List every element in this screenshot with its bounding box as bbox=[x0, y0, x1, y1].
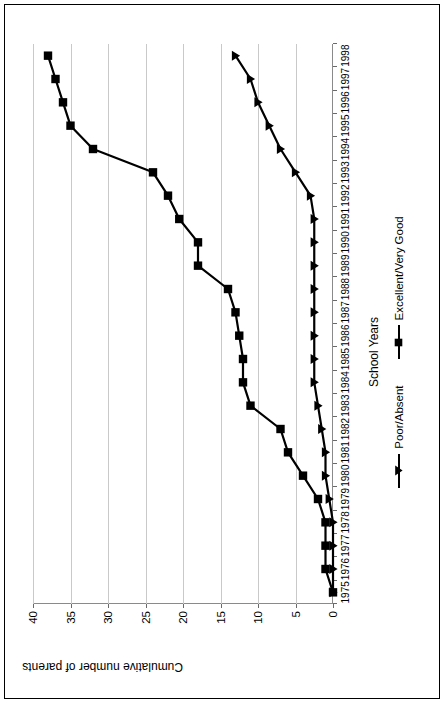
y-axis-title: Cumulative number of parents bbox=[22, 660, 183, 674]
x-tick-label: 1993 bbox=[340, 161, 351, 183]
x-tick-label: 1992 bbox=[340, 184, 351, 206]
data-point bbox=[44, 51, 52, 59]
triangle-marker-icon bbox=[398, 453, 400, 487]
data-point bbox=[299, 471, 307, 479]
legend-label-excellent-very-good: Excellent/Very Good bbox=[393, 216, 405, 320]
x-tick-mark bbox=[333, 183, 337, 184]
data-point bbox=[194, 238, 202, 246]
x-tick-label: 1980 bbox=[340, 464, 351, 486]
data-point bbox=[246, 401, 254, 409]
x-tick-mark bbox=[333, 43, 337, 44]
x-tick-label: 1978 bbox=[340, 511, 351, 533]
chart-canvas: 0510152025303540 19751976197719781979198… bbox=[15, 22, 429, 682]
y-tick-mark bbox=[183, 604, 184, 608]
data-point bbox=[51, 74, 59, 82]
x-tick-mark bbox=[333, 416, 337, 417]
chart-legend: Poor/Absent Excellent/Very Good bbox=[393, 22, 405, 682]
y-tick-mark bbox=[108, 604, 109, 608]
y-tick-label: 25 bbox=[140, 611, 152, 624]
data-point bbox=[321, 518, 329, 526]
y-tick-label: 0 bbox=[327, 611, 339, 617]
data-point bbox=[164, 191, 172, 199]
y-tick-label: 20 bbox=[177, 611, 189, 624]
x-tick-mark bbox=[333, 509, 337, 510]
y-tick-label: 5 bbox=[290, 611, 302, 617]
x-tick-label: 1979 bbox=[340, 487, 351, 509]
legend-label-poor-absent: Poor/Absent bbox=[393, 385, 405, 448]
x-tick-label: 1988 bbox=[340, 277, 351, 299]
x-tick-label: 1990 bbox=[340, 231, 351, 253]
x-tick-label: 1991 bbox=[340, 207, 351, 229]
y-tick-mark bbox=[221, 604, 222, 608]
y-tick-mark bbox=[33, 604, 34, 608]
data-point bbox=[59, 98, 67, 106]
data-point bbox=[89, 144, 97, 152]
x-tick-label: 1996 bbox=[340, 91, 351, 113]
x-tick-mark bbox=[333, 229, 337, 230]
y-tick-mark bbox=[71, 604, 72, 608]
legend-item-poor-absent: Poor/Absent bbox=[393, 385, 405, 487]
x-tick-label: 1976 bbox=[340, 557, 351, 579]
data-point bbox=[239, 378, 247, 386]
data-point bbox=[235, 331, 243, 339]
x-tick-mark bbox=[333, 299, 337, 300]
x-tick-label: 1995 bbox=[340, 114, 351, 136]
y-tick-mark bbox=[146, 604, 147, 608]
x-tick-mark bbox=[333, 276, 337, 277]
data-point bbox=[232, 50, 240, 60]
y-tick-label: 40 bbox=[27, 611, 39, 624]
data-point bbox=[292, 167, 300, 177]
x-tick-label: 1982 bbox=[340, 417, 351, 439]
data-point bbox=[194, 261, 202, 269]
data-point bbox=[314, 494, 322, 502]
x-tick-label: 1975 bbox=[340, 581, 351, 603]
y-tick-label: 10 bbox=[252, 611, 264, 624]
data-point bbox=[276, 424, 284, 432]
x-tick-label: 1984 bbox=[340, 371, 351, 393]
x-tick-label: 1981 bbox=[340, 441, 351, 463]
x-tick-label: 1983 bbox=[340, 394, 351, 416]
x-tick-label: 1997 bbox=[340, 67, 351, 89]
x-tick-mark bbox=[333, 346, 337, 347]
x-tick-label: 1994 bbox=[340, 137, 351, 159]
data-point bbox=[277, 144, 285, 154]
x-tick-mark bbox=[333, 486, 337, 487]
x-tick-mark bbox=[333, 253, 337, 254]
x-tick-mark bbox=[333, 66, 337, 67]
y-tick-label: 35 bbox=[65, 611, 77, 624]
x-tick-label: 1985 bbox=[340, 347, 351, 369]
data-point bbox=[321, 541, 329, 549]
x-tick-label: 1977 bbox=[340, 534, 351, 556]
x-tick-mark bbox=[333, 89, 337, 90]
x-tick-mark bbox=[333, 113, 337, 114]
data-point bbox=[239, 354, 247, 362]
legend-item-excellent-very-good: Excellent/Very Good bbox=[393, 216, 405, 359]
x-tick-label: 1987 bbox=[340, 301, 351, 323]
x-tick-mark bbox=[333, 603, 337, 604]
data-point bbox=[175, 214, 183, 222]
y-tick-label: 15 bbox=[215, 611, 227, 624]
x-axis-title: School Years bbox=[367, 22, 381, 682]
x-tick-mark bbox=[333, 463, 337, 464]
plot-area: 0510152025303540 19751976197719781979198… bbox=[33, 44, 333, 604]
series-layer bbox=[33, 44, 333, 604]
data-point bbox=[149, 168, 157, 176]
series-line-excellent-very-good bbox=[48, 55, 333, 592]
x-tick-mark bbox=[333, 136, 337, 137]
y-tick-label: 30 bbox=[102, 611, 114, 624]
y-tick-mark bbox=[333, 604, 334, 608]
y-tick-mark bbox=[258, 604, 259, 608]
data-point bbox=[284, 448, 292, 456]
x-tick-mark bbox=[333, 206, 337, 207]
x-tick-mark bbox=[333, 369, 337, 370]
data-point bbox=[66, 121, 74, 129]
data-point bbox=[231, 308, 239, 316]
x-tick-mark bbox=[333, 393, 337, 394]
x-tick-mark bbox=[333, 439, 337, 440]
x-tick-label: 1998 bbox=[340, 44, 351, 66]
x-tick-mark bbox=[333, 323, 337, 324]
data-point bbox=[224, 284, 232, 292]
chart-figure: 0510152025303540 19751976197719781979198… bbox=[0, 0, 444, 703]
x-tick-label: 1986 bbox=[340, 324, 351, 346]
data-point bbox=[321, 564, 329, 572]
